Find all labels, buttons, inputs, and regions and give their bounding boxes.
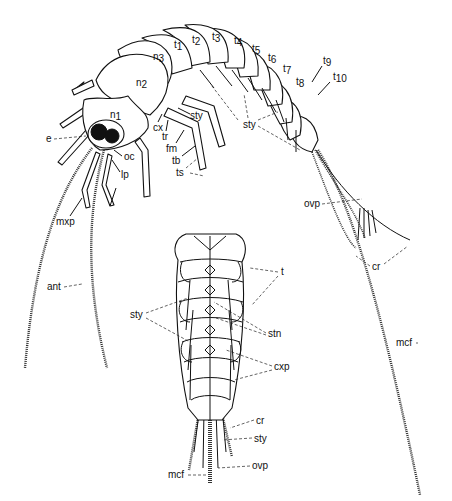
label-fm: fm bbox=[166, 143, 177, 154]
ventral-cercus-left bbox=[189, 418, 198, 470]
bristletail-anatomy-figure: n2 n3 n1 t1 t2 t3 t4 t5 t6 t7 t8 t9 t10 … bbox=[0, 0, 452, 501]
label-mcf-ventral: mcf bbox=[168, 469, 184, 480]
ovipositor-tips bbox=[358, 208, 376, 240]
label-sty-abdomen: sty bbox=[243, 119, 256, 130]
label-tb: tb bbox=[172, 155, 181, 166]
label-sty-ventral-bottom: sty bbox=[254, 433, 267, 444]
label-sty-leg: sty bbox=[190, 110, 203, 121]
antennae bbox=[25, 148, 107, 368]
label-mcf-lateral: mcf bbox=[396, 337, 412, 348]
t9-t10-leaders bbox=[312, 66, 330, 95]
label-mxp: mxp bbox=[56, 216, 75, 227]
eye-right bbox=[105, 129, 119, 143]
label-tr: tr bbox=[162, 131, 169, 142]
ovipositor-valve bbox=[315, 150, 365, 238]
caudal-filaments bbox=[312, 150, 420, 495]
median-caudal-filament bbox=[318, 150, 420, 495]
label-cr: cr bbox=[372, 261, 381, 272]
label-ts: ts bbox=[176, 167, 184, 178]
label-e: e bbox=[46, 133, 52, 144]
label-t-ventral: t bbox=[281, 266, 284, 277]
leg-left-3 bbox=[58, 130, 90, 165]
label-t7: t7 bbox=[283, 63, 292, 76]
label-sty-ventral: sty bbox=[130, 309, 143, 320]
label-cr-ventral: cr bbox=[256, 415, 265, 426]
cercus-right bbox=[316, 150, 410, 240]
label-ant: ant bbox=[47, 281, 61, 292]
label-cxp: cxp bbox=[274, 361, 290, 372]
ventral-view: t sty stn cxp cr sty ovp mcf bbox=[130, 234, 290, 484]
compound-eyes bbox=[88, 120, 124, 148]
abdomen bbox=[142, 25, 318, 152]
label-lp: lp bbox=[121, 169, 129, 180]
antenna-left bbox=[25, 148, 92, 368]
label-t9: t9 bbox=[323, 55, 332, 68]
maxillary-palps bbox=[82, 152, 116, 208]
eye-left bbox=[91, 124, 107, 140]
label-t10: t10 bbox=[333, 71, 347, 84]
label-stn: stn bbox=[268, 328, 281, 339]
label-t6: t6 bbox=[268, 52, 277, 65]
label-ovp: ovp bbox=[304, 198, 321, 209]
leg-1 bbox=[135, 138, 150, 197]
label-t8: t8 bbox=[296, 76, 305, 89]
label-ovp-ventral: ovp bbox=[252, 460, 269, 471]
label-oc: oc bbox=[124, 151, 135, 162]
